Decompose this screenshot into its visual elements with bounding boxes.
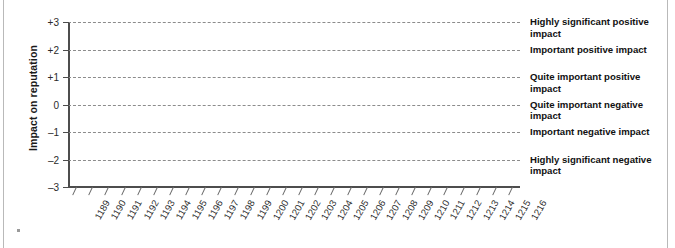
x-tick-mark <box>314 187 319 196</box>
x-tick-mark <box>234 187 239 196</box>
x-tick-label: 1201 <box>286 198 306 222</box>
x-tick-mark <box>444 187 449 196</box>
legend-entry: Quite important negative impact <box>530 99 662 122</box>
x-tick-label: 1203 <box>319 198 339 222</box>
x-tick-label: 1193 <box>157 198 177 221</box>
legend-entry: Highly significant negative impact <box>530 154 662 177</box>
x-tick-mark <box>72 187 77 196</box>
x-tick-mark <box>266 187 271 196</box>
x-tick-label: 1209 <box>415 198 435 222</box>
gridline <box>68 132 520 133</box>
x-tick-mark <box>218 187 223 196</box>
gridline <box>68 77 520 78</box>
gridline <box>68 50 520 51</box>
y-tick-label: –1 <box>48 127 59 138</box>
x-tick-label: 1196 <box>205 198 225 221</box>
y-tick-label: –2 <box>48 154 59 165</box>
scale-legend: Highly significant positive impactImport… <box>530 0 662 248</box>
x-tick-label: 1212 <box>464 198 484 222</box>
x-tick-mark <box>88 187 93 196</box>
x-tick-label: 1198 <box>238 198 258 221</box>
x-tick-label: 1197 <box>221 198 241 221</box>
x-tick-mark <box>331 187 336 196</box>
x-tick-label: 1206 <box>367 198 387 222</box>
y-tick-label: +3 <box>48 17 59 28</box>
x-tick-label: 1205 <box>351 198 371 222</box>
x-tick-mark <box>347 187 352 196</box>
y-tick-label: +1 <box>48 72 59 83</box>
x-tick-label: 1194 <box>173 198 193 221</box>
x-tick-mark <box>105 187 110 196</box>
y-tick-mark <box>63 50 69 51</box>
x-tick-mark <box>411 187 416 196</box>
x-tick-label: 1214 <box>496 198 516 222</box>
page-frame-right-rule <box>667 0 668 248</box>
x-tick-label: 1207 <box>383 198 403 222</box>
x-tick-mark <box>185 187 190 196</box>
scan-artifact-speck <box>17 229 20 232</box>
x-tick-mark <box>427 187 432 196</box>
x-tick-label: 1192 <box>141 198 161 221</box>
y-tick-label: –3 <box>48 182 59 193</box>
gridline <box>68 22 520 23</box>
x-tick-label: 1202 <box>302 198 322 222</box>
x-tick-mark <box>460 187 465 196</box>
x-tick-label: 1211 <box>447 198 467 221</box>
y-tick-mark <box>63 132 69 133</box>
x-tick-label: 1204 <box>335 198 355 222</box>
x-tick-mark <box>298 187 303 196</box>
y-tick-mark <box>63 160 69 161</box>
x-tick-label: 1195 <box>189 198 209 221</box>
gridline <box>68 160 520 161</box>
x-axis-spine <box>68 186 520 188</box>
x-tick-mark <box>363 187 368 196</box>
chart-figure: Impact on reputation +3+2+10–1–2–3 11891… <box>0 0 675 248</box>
x-tick-mark <box>153 187 158 196</box>
x-tick-mark <box>282 187 287 196</box>
legend-entry: Quite important positive impact <box>530 71 662 94</box>
y-axis-title: Impact on reputation <box>27 18 39 178</box>
y-tick-mark <box>63 22 69 23</box>
x-tick-mark <box>508 187 513 196</box>
legend-entry: Important positive impact <box>530 44 662 56</box>
x-tick-label: 1210 <box>432 198 452 222</box>
plot-area: +3+2+10–1–2–3 11891190119111921193119411… <box>68 22 520 187</box>
page-frame-left-rule <box>3 0 4 248</box>
x-tick-mark <box>201 187 206 196</box>
y-tick-label: 0 <box>53 99 59 110</box>
x-tick-mark <box>492 187 497 196</box>
x-tick-mark <box>121 187 126 196</box>
x-tick-mark <box>250 187 255 196</box>
x-tick-label: 1190 <box>108 198 128 221</box>
legend-entry: Highly significant positive impact <box>530 16 662 39</box>
x-tick-mark <box>395 187 400 196</box>
y-tick-mark <box>63 77 69 78</box>
x-tick-mark <box>379 187 384 196</box>
gridline <box>68 105 520 106</box>
x-tick-label: 1189 <box>92 198 112 221</box>
x-tick-mark <box>476 187 481 196</box>
x-tick-label: 1200 <box>270 198 290 222</box>
y-tick-mark <box>63 187 69 188</box>
x-tick-mark <box>137 187 142 196</box>
x-tick-label: 1191 <box>125 198 145 221</box>
y-tick-label: +2 <box>48 44 59 55</box>
legend-entry: Important negative impact <box>530 126 662 138</box>
x-tick-label: 1199 <box>254 198 274 221</box>
x-tick-mark <box>169 187 174 196</box>
y-tick-mark <box>63 105 69 106</box>
x-tick-label: 1213 <box>480 198 500 222</box>
x-tick-label: 1208 <box>399 198 419 222</box>
